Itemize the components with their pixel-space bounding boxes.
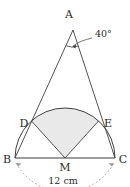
vertex-label-e: E [104,117,112,130]
geometry-diagram-svg: A B C D E M 40° 12 cm [0,0,130,187]
vertex-label-d: D [20,117,29,130]
angle-label-40deg: 40° [95,28,112,39]
dimension-arrow-left [16,163,22,167]
vertex-label-b: B [3,153,11,166]
shaded-sector-dme [32,108,99,158]
dimension-label-12cm: 12 cm [48,175,77,186]
vertex-label-m: M [59,161,70,174]
angle-arc-a [66,46,78,47]
vertex-label-c: C [119,153,127,166]
vertex-label-a: A [64,8,74,21]
geometry-figure: A B C D E M 40° 12 cm [0,0,130,187]
